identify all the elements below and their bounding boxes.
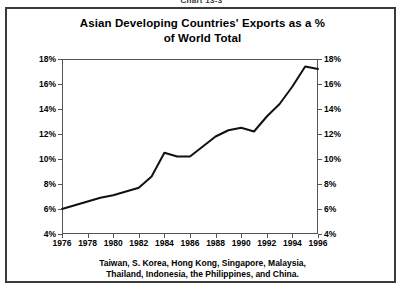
y-axis-label-right: 4% bbox=[324, 230, 364, 239]
y-axis-label-right: 6% bbox=[324, 205, 364, 214]
y-axis-tick-left bbox=[58, 84, 62, 85]
y-axis-label-left: 4% bbox=[16, 230, 56, 239]
y-axis-tick-right bbox=[318, 134, 322, 135]
y-axis-tick-left bbox=[58, 134, 62, 135]
y-axis-tick-right bbox=[318, 109, 322, 110]
y-axis-tick-left bbox=[58, 159, 62, 160]
line-series bbox=[62, 59, 318, 234]
chart-footnote-line-2: Thailand, Indonesia, the Philippines, an… bbox=[7, 269, 398, 280]
y-axis-label-left: 16% bbox=[16, 80, 56, 89]
y-axis-label-right: 16% bbox=[324, 80, 364, 89]
y-axis-label-right: 10% bbox=[324, 155, 364, 164]
y-axis-label-left: 12% bbox=[16, 130, 56, 139]
chart-figure-frame: Asian Developing Countries' Exports as a… bbox=[5, 7, 396, 283]
chart-title: Asian Developing Countries' Exports as a… bbox=[7, 16, 398, 46]
data-line bbox=[62, 67, 318, 210]
chart-title-line-1: Asian Developing Countries' Exports as a… bbox=[80, 17, 325, 29]
y-axis-label-left: 14% bbox=[16, 105, 56, 114]
y-axis-label-right: 8% bbox=[324, 180, 364, 189]
y-axis-label-right: 18% bbox=[324, 55, 364, 64]
y-axis-tick-left bbox=[58, 59, 62, 60]
y-axis-tick-right bbox=[318, 209, 322, 210]
y-axis-tick-right bbox=[318, 59, 322, 60]
y-axis-label-left: 18% bbox=[16, 55, 56, 64]
y-axis-tick-left bbox=[58, 184, 62, 185]
y-axis-label-right: 12% bbox=[324, 130, 364, 139]
y-axis-label-left: 6% bbox=[16, 205, 56, 214]
plot-area: 18%18%16%16%14%14%12%12%10%10%8%8%6%6%4%… bbox=[62, 59, 318, 234]
chart-footnote: Taiwan, S. Korea, Hong Kong, Singapore, … bbox=[7, 258, 398, 280]
x-axis-label: 1996 bbox=[303, 239, 333, 248]
y-axis-label-left: 8% bbox=[16, 180, 56, 189]
y-axis-label-left: 10% bbox=[16, 155, 56, 164]
chart-number-caption: Chart 13-3 bbox=[0, 0, 403, 4]
y-axis-tick-right bbox=[318, 159, 322, 160]
chart-title-line-2: of World Total bbox=[7, 31, 398, 46]
y-axis-tick-left bbox=[58, 209, 62, 210]
y-axis-tick-left bbox=[58, 109, 62, 110]
chart-footnote-line-1: Taiwan, S. Korea, Hong Kong, Singapore, … bbox=[7, 258, 398, 269]
y-axis-tick-right bbox=[318, 84, 322, 85]
y-axis-label-right: 14% bbox=[324, 105, 364, 114]
y-axis-tick-right bbox=[318, 184, 322, 185]
